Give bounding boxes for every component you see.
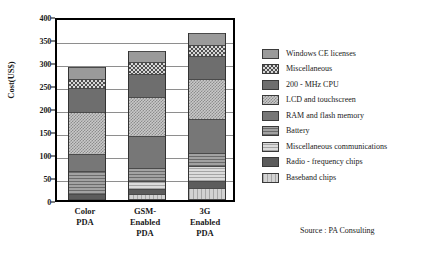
bar-segment-lcd[interactable] xyxy=(69,112,105,153)
legend-swatch-icon xyxy=(262,49,279,59)
legend-item[interactable]: Windows CE licenses xyxy=(262,46,420,62)
bar-segment-misc[interactable] xyxy=(129,62,165,74)
legend-item[interactable]: Miscellaneous xyxy=(262,62,420,78)
bar-segment-wince[interactable] xyxy=(189,33,225,45)
legend-item[interactable]: Baseband chips xyxy=(262,170,420,186)
bar-segment-battery[interactable] xyxy=(189,153,225,166)
x-axis-label-line: PDA xyxy=(170,228,240,239)
legend-swatch-icon xyxy=(262,64,279,74)
chart-figure: 050100150200250300350400 Cost(US$) Color… xyxy=(0,0,423,262)
legend-swatch-icon xyxy=(262,111,279,121)
legend-swatch-icon xyxy=(262,142,279,152)
legend-item-label: Battery xyxy=(286,126,310,136)
source-note: Source : PA Consulting xyxy=(300,226,375,235)
legend-item[interactable]: Miscellaneous communications xyxy=(262,139,420,155)
y-axis-tick-label: 350 xyxy=(40,37,51,46)
bar-segment-cpu[interactable] xyxy=(189,56,225,79)
legend-item-label: Radio - frequency chips xyxy=(286,157,363,167)
x-axis-label-line: Enabled xyxy=(170,217,240,228)
legend-swatch-icon xyxy=(262,80,279,90)
bar-segment-wince[interactable] xyxy=(129,51,165,63)
bar-segment-ram[interactable] xyxy=(189,119,225,154)
y-axis-tick-label: 200 xyxy=(40,106,51,115)
bar-segment-radio[interactable] xyxy=(129,189,165,194)
bar-segment-lcd[interactable] xyxy=(189,79,225,119)
legend-item-label: Miscellaneous xyxy=(286,64,332,74)
y-axis-title: Cost(US$) xyxy=(6,45,16,115)
bar-segment-battery[interactable] xyxy=(69,171,105,194)
bar-color-pda[interactable] xyxy=(68,67,106,200)
y-axis: 050100150200250300350400 xyxy=(18,10,55,210)
bar-segment-cpu[interactable] xyxy=(129,74,165,97)
bar-segment-baseband[interactable] xyxy=(129,194,165,200)
legend-item-label: LCD and touchscreen xyxy=(286,95,356,105)
chart-legend: Windows CE licensesMiscellaneous200 - MH… xyxy=(262,46,420,186)
x-axis-labels: ColorPDAGSM-EnabledPDA3GEnabledPDA xyxy=(55,206,235,256)
legend-item-label: RAM and flash memory xyxy=(286,111,364,121)
x-axis-label-line: 3G xyxy=(170,206,240,217)
bar-segment-misc[interactable] xyxy=(189,45,225,56)
legend-item[interactable]: 200 - MHz CPU xyxy=(262,77,420,93)
legend-item[interactable]: LCD and touchscreen xyxy=(262,93,420,109)
bar-segment-misc[interactable] xyxy=(69,79,105,89)
bar-segment-lcd[interactable] xyxy=(129,97,165,136)
bar-segment-misccom[interactable] xyxy=(129,181,165,189)
bar-segment-ram[interactable] xyxy=(69,154,105,171)
bar-segment-radio[interactable] xyxy=(69,194,105,200)
bar-segment-cpu[interactable] xyxy=(69,88,105,112)
y-axis-tick-label: 150 xyxy=(40,129,51,138)
bar-segment-misccom[interactable] xyxy=(189,166,225,181)
legend-swatch-icon xyxy=(262,157,279,167)
legend-item[interactable]: Radio - frequency chips xyxy=(262,155,420,171)
bar-3g-enabled-pda[interactable] xyxy=(188,33,226,200)
y-axis-tick-label: 50 xyxy=(43,175,51,184)
bar-segment-radio[interactable] xyxy=(189,181,225,187)
legend-item-label: Miscellaneous communications xyxy=(286,142,387,152)
x-axis-label-3: 3GEnabledPDA xyxy=(170,206,240,239)
bar-gsm-enabled-pda[interactable] xyxy=(128,51,166,200)
plot-area xyxy=(55,18,235,202)
bar-segment-battery[interactable] xyxy=(129,168,165,181)
legend-swatch-icon xyxy=(262,173,279,183)
y-axis-tick-label: 300 xyxy=(40,60,51,69)
bar-segment-ram[interactable] xyxy=(129,136,165,168)
legend-item-label: Windows CE licenses xyxy=(286,49,356,59)
legend-item-label: 200 - MHz CPU xyxy=(286,80,339,90)
legend-swatch-icon xyxy=(262,95,279,105)
y-axis-tick-label: 100 xyxy=(40,152,51,161)
legend-item-label: Baseband chips xyxy=(286,173,336,183)
legend-swatch-icon xyxy=(262,126,279,136)
bar-segment-wince[interactable] xyxy=(69,67,105,79)
y-axis-tick-label: 250 xyxy=(40,83,51,92)
legend-item[interactable]: Battery xyxy=(262,124,420,140)
legend-item[interactable]: RAM and flash memory xyxy=(262,108,420,124)
bar-segment-baseband[interactable] xyxy=(189,188,225,200)
y-axis-tick-label: 400 xyxy=(40,14,51,23)
